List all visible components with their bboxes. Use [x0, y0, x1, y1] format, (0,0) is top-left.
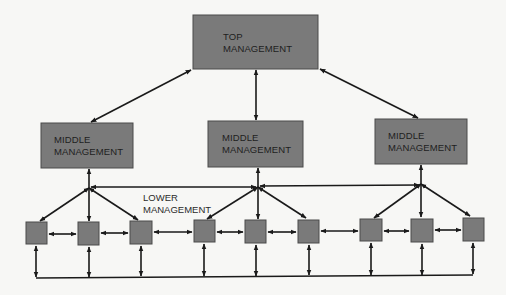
- lower-label-line2: MANAGEMENT: [143, 204, 211, 215]
- middle-management-box-center: MIDDLE MANAGEMENT: [208, 121, 303, 167]
- middle-left-label-line2: MANAGEMENT: [54, 146, 123, 157]
- middle-management-box-left: MIDDLE MANAGEMENT: [41, 123, 133, 168]
- lower-unit-4: [194, 220, 215, 242]
- lower-unit-6: [298, 220, 319, 243]
- lower-unit-7: [360, 219, 382, 241]
- lower-unit-9: [463, 218, 484, 241]
- org-diagram: TOP MANAGEMENT MIDDLE MANAGEMENT MIDDLE …: [0, 0, 506, 295]
- hub-connectors: [91, 185, 419, 187]
- top-label-line2: MANAGEMENT: [223, 43, 292, 54]
- bottom-bus-line: [36, 275, 473, 278]
- top-middle-connectors: [91, 69, 418, 122]
- lower-label-line1: LOWER: [143, 192, 178, 203]
- top-left-arrow: [91, 70, 191, 122]
- middle-management-box-right: MIDDLE MANAGEMENT: [375, 119, 467, 164]
- middle-center-label-line1: MIDDLE: [222, 132, 259, 143]
- lower-unit-2: [78, 222, 99, 245]
- middle-left-label-line1: MIDDLE: [54, 134, 91, 145]
- lower-unit-3: [130, 221, 152, 244]
- lower-bus-connectors: [36, 243, 473, 277]
- middle-center-label-line2: MANAGEMENT: [222, 144, 291, 155]
- lower-unit-8: [411, 219, 433, 242]
- lower-unit-5: [245, 220, 266, 243]
- top-management-box: TOP MANAGEMENT: [193, 15, 318, 69]
- middle-right-label-line1: MIDDLE: [388, 130, 425, 141]
- top-label-line1: TOP: [223, 31, 243, 42]
- middle-right-label-line2: MANAGEMENT: [388, 142, 457, 153]
- top-right-arrow: [320, 69, 418, 118]
- lower-management-units: [26, 218, 484, 245]
- hub-lower-connectors: [40, 184, 470, 221]
- lower-unit-1: [26, 222, 47, 244]
